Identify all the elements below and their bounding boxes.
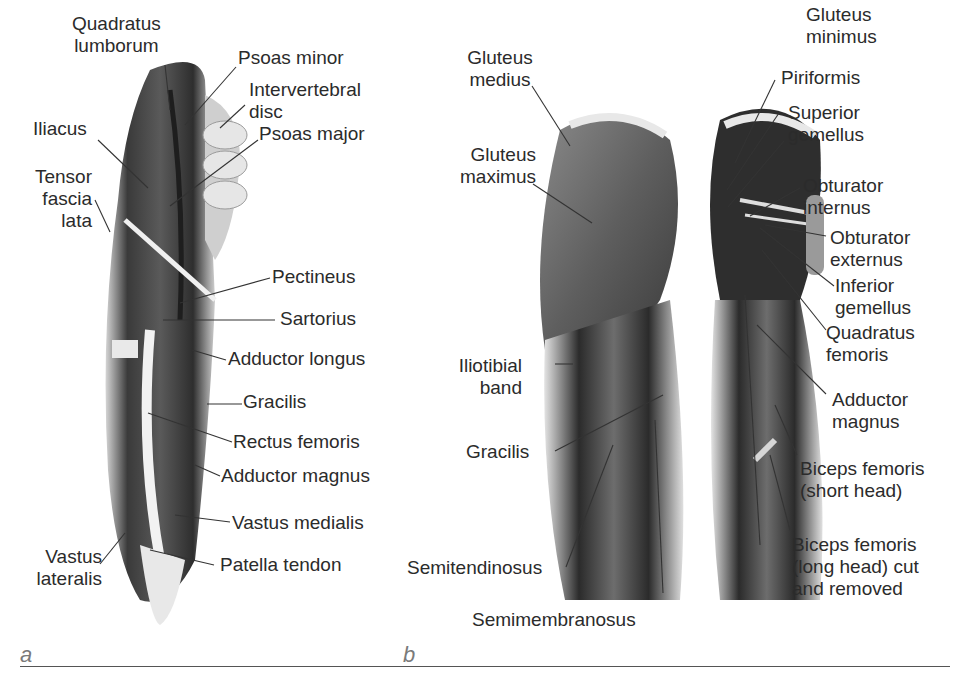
label-line: magnus [832,411,908,433]
panel-letter-b: b [403,642,415,668]
label-line: internus [803,197,883,219]
label-line: Adductor [832,389,908,411]
label-sartorius: Sartorius [280,308,356,330]
panel-letter-a: a [20,642,32,668]
label-line: externus [830,249,910,271]
label-gluteus-maximus: Gluteus maximus [450,144,536,188]
panel-b-illustration [540,109,824,600]
label-line: Gluteus [806,4,877,26]
label-vastus-medialis: Vastus medialis [232,512,364,534]
label-obturator-externus: Obturator externus [830,227,910,271]
label-line: Quadratus [826,322,915,344]
label-quadratus-femoris: Quadratus femoris [826,322,915,366]
label-line: Intervertebral [249,79,361,101]
label-line: Biceps femoris [792,534,919,556]
label-tensor-fascia-lata: Tensor fascia lata [20,166,92,232]
label-line: band [440,377,522,399]
label-line: Iliotibial [440,355,522,377]
label-line: Superior [788,102,864,124]
label-adductor-magnus-a: Adductor magnus [221,465,370,487]
label-gracilis-b: Gracilis [466,441,529,463]
label-line: Gluteus [460,47,540,69]
label-gluteus-medius: Gluteus medius [460,47,540,91]
label-semimembranosus: Semimembranosus [472,609,636,631]
label-gluteus-minimus: Gluteus minimus [806,4,877,48]
label-line: Obturator [803,175,883,197]
bottom-divider [20,666,950,667]
label-line: Tensor [20,166,92,188]
label-line: lateralis [22,568,102,590]
label-vastus-lateralis: Vastus lateralis [22,546,102,590]
label-line: maximus [450,166,536,188]
label-quadratus-lumborum: Quadratus lumborum [72,13,161,57]
label-line: Vastus [22,546,102,568]
label-line: (short head) [800,480,925,502]
label-intervertebral-disc: Intervertebral disc [249,79,361,123]
label-adductor-longus: Adductor longus [228,348,365,370]
label-line: Quadratus [72,13,161,35]
label-piriformis: Piriformis [781,67,860,89]
label-superior-gemellus: Superior gemellus [788,102,864,146]
label-gracilis-a: Gracilis [243,391,306,413]
label-iliacus: Iliacus [33,118,87,140]
label-line: disc [249,101,361,123]
label-line: gemellus [835,297,911,319]
label-patella-tendon: Patella tendon [220,554,342,576]
label-biceps-femoris-short-head: Biceps femoris (short head) [800,458,925,502]
label-line: gemellus [788,124,864,146]
label-obturator-internus: Obturator internus [803,175,883,219]
label-line: medius [460,69,540,91]
label-rectus-femoris: Rectus femoris [233,431,360,453]
label-biceps-femoris-long-head: Biceps femoris (long head) cut and remov… [792,534,919,600]
label-line: Biceps femoris [800,458,925,480]
label-iliotibial-band: Iliotibial band [440,355,522,399]
label-line: lumborum [72,35,161,57]
label-line: femoris [826,344,915,366]
label-psoas-major: Psoas major [259,123,365,145]
label-line: Gluteus [450,144,536,166]
label-line: minimus [806,26,877,48]
label-line: (long head) cut [792,556,919,578]
label-pectineus: Pectineus [272,266,355,288]
label-line: and removed [792,578,919,600]
label-psoas-minor: Psoas minor [238,47,344,69]
label-semitendinosus: Semitendinosus [407,557,542,579]
panel-a-illustration [106,62,247,625]
label-line: lata [20,210,92,232]
label-line: Obturator [830,227,910,249]
label-inferior-gemellus: Inferior gemellus [835,275,911,319]
label-adductor-magnus-b: Adductor magnus [832,389,908,433]
label-line: fascia [20,188,92,210]
label-line: Inferior [835,275,911,297]
